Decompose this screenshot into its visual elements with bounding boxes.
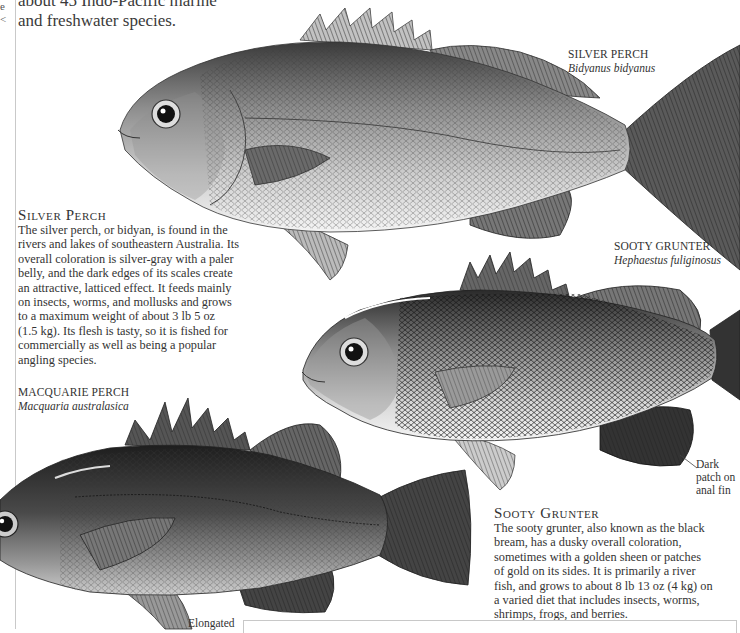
description-body: The sooty grunter, also known as the bla… bbox=[494, 521, 740, 622]
text-line: an attractive, latticed effect. It feeds… bbox=[18, 281, 303, 295]
latin-name: Hephaestus fuliginosus bbox=[614, 253, 721, 267]
silver-perch-description: Silver Perch The silver perch, or bidyan… bbox=[18, 207, 303, 367]
text-line: to a maximum weight of about 3 lb 5 oz bbox=[18, 309, 303, 323]
text-line: (1.5 kg). Its flesh is tasty, so it is f… bbox=[18, 324, 303, 338]
common-name: SOOTY GRUNTER bbox=[614, 239, 721, 253]
anal-fin-callout: Dark patch on anal fin bbox=[696, 458, 735, 497]
text-line: bream, has a dusky overall coloration, bbox=[494, 535, 740, 549]
callout-line: Dark bbox=[696, 458, 735, 471]
text-line: angling species. bbox=[18, 353, 303, 367]
text-line: belly, and the dark edges of its scales … bbox=[18, 266, 303, 280]
text-line: The silver perch, or bidyan, is found in… bbox=[18, 223, 303, 237]
latin-name: Macquaria australasica bbox=[18, 399, 129, 413]
description-body: The silver perch, or bidyan, is found in… bbox=[18, 223, 303, 367]
elongated-callout: Elongated bbox=[188, 617, 235, 630]
section-heading: Sooty Grunter bbox=[494, 505, 740, 521]
sooty-grunter-label: SOOTY GRUNTER Hephaestus fuliginosus bbox=[614, 239, 721, 267]
text-line: fish, and grows to about 8 lb 13 oz (4 k… bbox=[494, 579, 740, 593]
callout-line: Elongated bbox=[188, 617, 235, 630]
text-line: of gold on its sides. It is primarily a … bbox=[494, 564, 740, 578]
latin-name: Bidyanus bidyanus bbox=[568, 61, 655, 75]
text-line: sometimes with a golden sheen or patches bbox=[494, 550, 740, 564]
text-line: commercially as well as being a popular bbox=[18, 338, 303, 352]
common-name: MACQUARIE PERCH bbox=[18, 385, 129, 399]
text-line: The sooty grunter, also known as the bla… bbox=[494, 521, 740, 535]
silver-perch-label: SILVER PERCH Bidyanus bidyanus bbox=[568, 47, 655, 75]
text-line: overall coloration is silver-gray with a… bbox=[18, 252, 303, 266]
text-line: on insects, worms, and mollusks and grow… bbox=[18, 295, 303, 309]
section-heading: Silver Perch bbox=[18, 207, 303, 223]
text-line: rivers and lakes of southeastern Austral… bbox=[18, 237, 303, 251]
macquarie-perch-label: MACQUARIE PERCH Macquaria australasica bbox=[18, 385, 129, 413]
sidebar-box-top-border bbox=[243, 620, 737, 633]
text-line: a varied diet that includes insects, wor… bbox=[494, 593, 740, 607]
sooty-grunter-description: Sooty Grunter The sooty grunter, also kn… bbox=[494, 505, 740, 622]
common-name: SILVER PERCH bbox=[568, 47, 655, 61]
callout-line: anal fin bbox=[696, 484, 735, 497]
callout-line: patch on bbox=[696, 471, 735, 484]
